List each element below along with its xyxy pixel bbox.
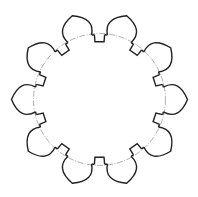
tooth-outline xyxy=(27,43,55,72)
notches-group xyxy=(36,35,162,165)
tooth-outline xyxy=(144,43,172,72)
tooth-outline xyxy=(107,16,137,43)
notch-outline xyxy=(57,44,69,55)
notch-outline xyxy=(94,35,104,42)
tooth-outline xyxy=(163,85,187,115)
tooth-outline xyxy=(62,156,92,183)
notch-outline xyxy=(130,44,142,55)
teeth-group xyxy=(12,16,188,183)
notch-outline xyxy=(57,144,69,155)
tooth-outline xyxy=(12,85,36,115)
tooth-outline xyxy=(27,127,55,156)
gear-diagram xyxy=(0,0,198,197)
tooth-outline xyxy=(107,156,137,183)
notch-outline xyxy=(130,144,142,155)
notch-outline xyxy=(94,157,104,164)
pitch-circle xyxy=(34,34,166,166)
tooth-outline xyxy=(62,16,92,43)
tooth-outline xyxy=(144,127,172,156)
